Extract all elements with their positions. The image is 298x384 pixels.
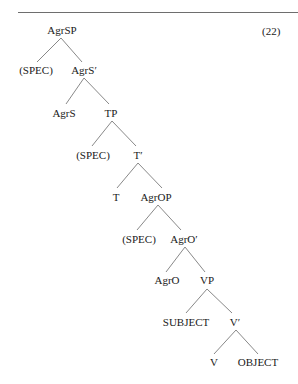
node-v-bar: V′ — [230, 316, 240, 329]
branch-t_bar-to-agrop — [138, 163, 162, 188]
node-spec-1: (SPEC) — [19, 64, 53, 77]
branch-agrs_bar-to-tp — [84, 78, 109, 104]
node-v: V — [210, 356, 218, 369]
node-t-bar: T′ — [133, 149, 142, 162]
node-agrs: AgrS — [52, 107, 75, 120]
node-agrsp: AgrSP — [47, 24, 76, 37]
branch-agrop-to-agro_bar — [158, 205, 181, 230]
branch-agrop-to-spec3 — [137, 205, 158, 230]
branch-agro_bar-to-vp — [185, 247, 205, 272]
node-tp: TP — [105, 107, 118, 120]
branch-vp-to-v_bar — [207, 289, 232, 313]
branch-agrsp-to-spec1 — [37, 38, 61, 62]
branch-v_bar-to-object — [236, 330, 258, 354]
branch-agrs_bar-to-agrs — [66, 78, 84, 104]
node-agrs-bar: AgrS′ — [71, 64, 97, 77]
node-spec-2: (SPEC) — [76, 149, 110, 162]
node-spec-3: (SPEC) — [122, 233, 156, 246]
node-agrop: AgrOP — [140, 191, 171, 204]
branch-t_bar-to-t — [117, 163, 138, 188]
node-agro: AgrO — [154, 274, 179, 287]
branch-agrsp-to-agrs_bar — [61, 38, 82, 62]
node-subject: SUBJECT — [163, 316, 209, 329]
branch-tp-to-t_bar — [112, 121, 136, 146]
branch-agro_bar-to-agro — [166, 247, 185, 272]
branch-v_bar-to-v — [214, 330, 236, 354]
node-vp: VP — [200, 274, 214, 287]
branch-vp-to-subject — [186, 289, 207, 313]
branch-tp-to-spec2 — [92, 121, 112, 146]
node-t: T — [113, 191, 120, 204]
node-object: OBJECT — [238, 356, 278, 369]
node-agro-bar: AgrO′ — [170, 233, 197, 246]
